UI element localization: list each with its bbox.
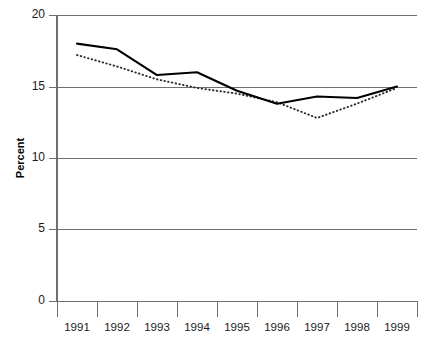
y-axis-title: Percent [14, 137, 26, 178]
x-tick-label-1994: 1994 [184, 321, 210, 333]
chart-container: 20 15 10 5 0 Percent 1991 1992 1993 1994 [0, 0, 425, 343]
x-tick-label-1996: 1996 [264, 321, 290, 333]
y-tick-label-5: 5 [38, 221, 45, 235]
x-tick-labels: 1991 1992 1993 1994 1995 1996 1997 1998 … [64, 321, 410, 333]
chart-background [0, 0, 425, 343]
line-chart: 20 15 10 5 0 Percent 1991 1992 1993 1994 [0, 0, 425, 343]
y-tick-label-15: 15 [32, 79, 46, 93]
x-tick-label-1993: 1993 [144, 321, 170, 333]
x-tick-label-1991: 1991 [64, 321, 90, 333]
x-tick-label-1995: 1995 [224, 321, 250, 333]
y-tick-label-20: 20 [32, 7, 46, 21]
x-tick-label-1999: 1999 [384, 321, 410, 333]
y-tick-label-0: 0 [38, 293, 45, 307]
y-tick-label-10: 10 [32, 150, 46, 164]
x-tick-label-1998: 1998 [344, 321, 370, 333]
x-tick-label-1997: 1997 [304, 321, 330, 333]
x-tick-label-1992: 1992 [104, 321, 130, 333]
